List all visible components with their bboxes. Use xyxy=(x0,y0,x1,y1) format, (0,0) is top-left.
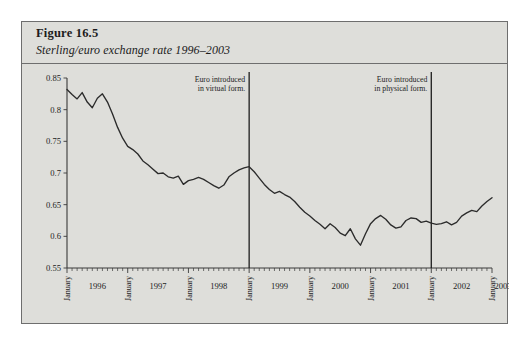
chart-plot-area: 0.550.60.650.70.750.80.85 JanuaryJanuary… xyxy=(22,64,509,324)
x-year-label: 2003 xyxy=(494,281,509,291)
x-month-label: January xyxy=(367,276,376,301)
x-month-label: January xyxy=(185,276,194,301)
y-tick-label: 0.7 xyxy=(50,168,61,178)
y-tick-label: 0.8 xyxy=(50,105,61,115)
y-tick-label: 0.6 xyxy=(50,231,61,241)
x-month-label: January xyxy=(63,276,72,301)
x-month-label: January xyxy=(245,276,254,301)
figure-caption: Sterling/euro exchange rate 1996–2003 xyxy=(36,43,230,58)
x-year-label: 1996 xyxy=(89,281,107,291)
x-year-label: 2001 xyxy=(392,281,409,291)
figure-title-block: Figure 16.5 Sterling/euro exchange rate … xyxy=(22,22,507,64)
annotation-text: Euro introduced xyxy=(377,75,428,84)
x-year-label: 1998 xyxy=(210,281,227,291)
x-year-label: 1999 xyxy=(271,281,288,291)
x-month-label: January xyxy=(124,276,133,301)
y-tick-label: 0.75 xyxy=(46,136,61,146)
x-year-label: 2000 xyxy=(332,281,349,291)
line-chart: 0.550.60.650.70.750.80.85 JanuaryJanuary… xyxy=(22,64,509,324)
x-year-label: 2002 xyxy=(453,281,470,291)
annotation-text: Euro introduced xyxy=(195,75,246,84)
y-tick-label: 0.55 xyxy=(46,263,61,273)
series-line xyxy=(67,89,492,245)
chart-annotations: Euro introducedin virtual form.Euro intr… xyxy=(195,72,432,268)
x-month-label: January xyxy=(306,276,315,301)
annotation-text: in physical form. xyxy=(374,84,427,93)
x-axis: JanuaryJanuaryJanuaryJanuaryJanuaryJanua… xyxy=(63,268,509,301)
y-axis: 0.550.60.650.70.750.80.85 xyxy=(46,73,67,273)
y-tick-label: 0.65 xyxy=(46,200,61,210)
x-month-label: January xyxy=(427,276,436,301)
data-series xyxy=(67,89,492,245)
annotation-text: in virtual form. xyxy=(198,84,245,93)
y-tick-label: 0.85 xyxy=(46,73,61,83)
x-year-label: 1997 xyxy=(149,281,167,291)
figure-container: Figure 16.5 Sterling/euro exchange rate … xyxy=(21,21,508,324)
figure-label: Figure 16.5 xyxy=(36,26,98,41)
